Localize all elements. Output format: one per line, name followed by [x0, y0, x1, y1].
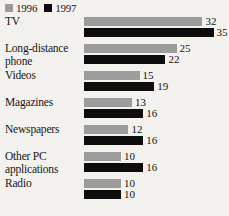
bar-value-1996: 32 [205, 16, 216, 27]
bar-line-1997: 22 [84, 55, 229, 64]
bar-value-1996: 13 [135, 97, 146, 108]
category-label-line: Newspapers [5, 123, 81, 136]
bar-1996 [84, 152, 121, 161]
category-label: Magazines [5, 96, 81, 109]
chart-row: Long-distancephone2522 [0, 42, 229, 69]
category-label: Other PCapplications [5, 150, 81, 175]
bar-group: 2522 [84, 44, 229, 66]
chart-row: Newspapers1216 [0, 123, 229, 150]
chart-row: Videos1519 [0, 69, 229, 96]
bar-group: 1016 [84, 152, 229, 174]
bar-line-1996: 15 [84, 71, 229, 80]
bar-line-1997: 16 [84, 163, 229, 172]
bar-1997 [84, 109, 143, 118]
category-label-line: Magazines [5, 96, 81, 109]
bar-group: 3235 [84, 17, 229, 39]
bar-value-1997: 16 [146, 108, 157, 119]
bar-group: 1519 [84, 71, 229, 93]
bar-line-1997: 10 [84, 190, 229, 199]
chart-row: Other PCapplications1016 [0, 150, 229, 177]
category-label: Newspapers [5, 123, 81, 136]
bar-chart: 1996 1997 TV3235Long-distancephone2522Vi… [0, 0, 229, 216]
legend-swatch-1996 [5, 4, 13, 12]
bar-value-1997: 19 [157, 81, 168, 92]
bar-1996 [84, 17, 202, 26]
bar-value-1997: 22 [168, 54, 179, 65]
bar-value-1997: 35 [217, 27, 228, 38]
bar-value-1996: 10 [124, 151, 135, 162]
category-label-line: TV [5, 15, 81, 28]
legend-entry-1997: 1997 [44, 3, 76, 14]
bar-line-1997: 35 [84, 28, 229, 37]
bar-1997 [84, 190, 121, 199]
bar-1997 [84, 163, 143, 172]
bar-1996 [84, 44, 177, 53]
bar-value-1997: 16 [146, 135, 157, 146]
chart-row: Radio1010 [0, 177, 229, 204]
category-label-line: applications [5, 163, 81, 176]
bar-line-1997: 16 [84, 109, 229, 118]
category-label-line: Long-distance [5, 42, 81, 55]
bar-line-1996: 10 [84, 179, 229, 188]
bar-1996 [84, 71, 140, 80]
bar-value-1996: 12 [131, 124, 142, 135]
bar-1997 [84, 28, 214, 37]
category-label: Videos [5, 69, 81, 82]
category-label: TV [5, 15, 81, 28]
bar-line-1996: 32 [84, 17, 229, 26]
bar-1996 [84, 125, 128, 134]
category-label: Radio [5, 177, 81, 190]
legend-label-1997: 1997 [55, 3, 76, 14]
bar-group: 1010 [84, 179, 229, 201]
bar-line-1996: 10 [84, 152, 229, 161]
bar-line-1997: 16 [84, 136, 229, 145]
bar-line-1997: 19 [84, 82, 229, 91]
bar-group: 1216 [84, 125, 229, 147]
bar-value-1997: 10 [124, 189, 135, 200]
bar-line-1996: 13 [84, 98, 229, 107]
bar-value-1996: 15 [143, 70, 154, 81]
bar-group: 1316 [84, 98, 229, 120]
category-label-line: phone [5, 55, 81, 68]
chart-legend: 1996 1997 [5, 2, 76, 14]
bar-line-1996: 25 [84, 44, 229, 53]
category-label: Long-distancephone [5, 42, 81, 67]
legend-swatch-1997 [44, 4, 52, 12]
bar-1997 [84, 136, 143, 145]
bar-value-1996: 25 [180, 43, 191, 54]
category-label-line: Videos [5, 69, 81, 82]
legend-label-1996: 1996 [16, 3, 37, 14]
bar-1997 [84, 55, 165, 64]
bar-value-1997: 16 [146, 162, 157, 173]
bar-1997 [84, 82, 154, 91]
chart-rows: TV3235Long-distancephone2522Videos1519Ma… [0, 15, 229, 204]
category-label-line: Other PC [5, 150, 81, 163]
bar-line-1996: 12 [84, 125, 229, 134]
category-label-line: Radio [5, 177, 81, 190]
legend-entry-1996: 1996 [5, 3, 37, 14]
bar-1996 [84, 98, 132, 107]
bar-1996 [84, 179, 121, 188]
chart-row: TV3235 [0, 15, 229, 42]
chart-row: Magazines1316 [0, 96, 229, 123]
